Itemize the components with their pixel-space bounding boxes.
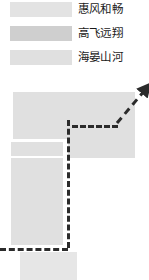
bar-top-wide (13, 92, 135, 139)
dash-vertical-main (67, 120, 70, 248)
dash-horizontal-upper (72, 125, 118, 128)
legend-item-0: 惠风和畅 (0, 0, 149, 20)
bar-bottom-left (20, 252, 77, 280)
legend-item-1: 高飞远翔 (0, 24, 149, 44)
legend-swatch-huifenghechang (10, 2, 72, 17)
legend-swatch-gaofeiyuanxiang (10, 26, 72, 41)
bar-mid-left (11, 142, 63, 156)
legend-label-1: 高飞远翔 (78, 24, 149, 43)
bar-mid-right (68, 139, 135, 158)
figure-canvas: 惠风和畅 高飞远翔 海晏山河 (0, 0, 149, 280)
dash-horizontal-lower (0, 248, 68, 251)
legend-swatch-haiyanshanhe (10, 50, 72, 65)
bar-tall-left (11, 158, 63, 245)
legend-item-2: 海晏山河 (0, 48, 149, 68)
legend-label-0: 惠风和畅 (78, 0, 149, 19)
legend-label-2: 海晏山河 (78, 48, 149, 67)
